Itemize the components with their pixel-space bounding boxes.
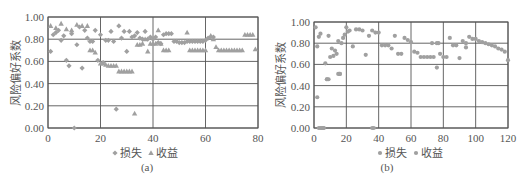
data-point-gain [322,126,326,130]
data-point-loss [344,25,348,29]
data-point-loss [169,31,174,36]
y-tick-label: 1.00 [25,11,45,23]
legend-label-gain: 收益 [156,146,178,160]
scatter-chart-a: 0.000.200.400.600.801.00020406080风险偏好系数损… [0,0,265,180]
data-point-loss [457,56,461,60]
data-point-loss [339,41,343,45]
x-tick-label: 80 [253,132,265,144]
data-point-loss [343,33,347,37]
data-point-gain [372,126,376,130]
y-tick-label: 0.40 [25,78,45,90]
y-tick-label: 0.20 [291,101,311,113]
data-point-loss [386,43,390,47]
x-tick-label: 20 [341,132,353,144]
y-axis-label: 风险偏好系数 [274,42,288,108]
data-point-loss [367,34,371,38]
data-point-loss [122,29,127,34]
x-tick-label: 0 [45,132,51,144]
panel-label: (a) [141,161,154,174]
data-point-loss [108,29,113,34]
data-point-loss [116,23,121,28]
legend-marker-loss [378,151,382,155]
data-point-loss [61,33,66,38]
data-point-loss [464,45,468,49]
data-point-loss [93,28,98,33]
data-point-loss [444,55,448,59]
data-point-gain [64,26,69,31]
data-point-loss [74,42,79,47]
data-point-loss [114,107,119,112]
data-point-gain [85,23,90,28]
y-tick-label: 1.00 [291,16,311,28]
data-point-loss [390,46,394,50]
data-point-loss [347,28,351,32]
panel-label: (b) [381,161,394,174]
data-point-loss [435,65,439,69]
data-point-loss [415,51,419,55]
x-tick-label: 40 [148,132,160,144]
data-point-loss [399,52,403,56]
legend: 损失收益 [378,146,443,160]
data-point-loss [335,52,339,56]
data-point-gain [326,77,330,81]
legend-marker-gain [148,150,153,155]
data-point-loss [377,30,381,34]
data-point-loss [454,43,458,47]
data-point-loss [66,63,71,68]
legend-label-gain: 收益 [421,146,443,160]
data-point-loss [393,34,397,38]
data-point-loss [127,29,132,34]
data-point-loss [438,52,442,56]
data-point-loss [143,29,148,34]
data-point-loss [326,34,330,38]
data-point-gain [213,44,218,49]
data-point-gain [48,23,53,28]
data-points [314,25,511,130]
data-point-loss [448,36,452,40]
data-point-loss [503,50,507,54]
data-point-gain [58,21,63,26]
data-point-loss [409,40,413,44]
x-tick-label: 60 [200,132,212,144]
legend-label-loss: 损失 [385,146,407,160]
data-point-gain [464,41,468,45]
data-point-loss [72,125,77,130]
data-point-gain [184,30,189,35]
legend-marker-gain [414,151,418,155]
data-point-gain [436,41,440,45]
y-axis-label: 风险偏好系数 [9,40,23,106]
data-point-gain [145,49,150,54]
data-point-loss [360,28,364,32]
data-point-loss [364,53,368,57]
data-point-loss [80,65,85,70]
data-point-gain [315,44,319,48]
data-point-loss [506,58,510,62]
x-tick-label: 40 [373,132,385,144]
data-point-loss [119,35,124,40]
data-point-gain [430,41,434,45]
data-point-gain [156,28,161,33]
data-point-gain [74,22,79,27]
data-point-loss [315,95,319,99]
data-point-loss [432,55,436,59]
x-tick-label: 80 [438,132,450,144]
x-tick-label: 120 [500,132,517,144]
y-tick-label: 0.60 [25,55,45,67]
chart-panel-b: 0.000.200.400.600.801.00020406080100120风… [265,0,529,180]
data-point-gain [132,111,137,116]
y-tick-label: 0.80 [25,33,45,45]
data-point-loss [48,49,53,54]
data-point-loss [318,32,322,36]
y-tick-label: 0.80 [291,37,311,49]
data-point-gain [140,41,145,46]
data-point-gain [53,25,58,30]
y-tick-label: 0.40 [291,80,311,92]
data-point-loss [351,44,355,48]
data-point-loss [323,61,327,65]
y-tick-label: 0.20 [25,100,45,112]
legend-label-loss: 损失 [120,146,142,160]
data-point-gain [253,46,258,51]
chart-panel-a: 0.000.200.400.600.801.00020406080风险偏好系数损… [0,0,265,180]
data-point-loss [82,28,87,33]
x-tick-label: 60 [406,132,418,144]
